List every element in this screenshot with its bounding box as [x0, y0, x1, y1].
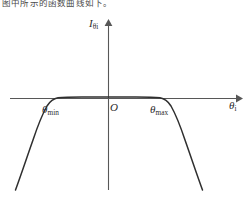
y-axis-subscript: θi — [93, 23, 99, 31]
x-axis-arrowhead — [236, 95, 243, 103]
y-axis-label: Iθi — [89, 17, 98, 31]
theta-min-subscript: min — [47, 109, 59, 117]
theta-max-subscript: max — [155, 109, 168, 117]
x-axis-subscript: i — [234, 105, 236, 113]
theta-max-label: θmax — [150, 103, 168, 117]
theta-min-label: θmin — [42, 103, 59, 117]
origin-label: O — [110, 101, 118, 113]
x-axis-label: θi — [229, 99, 237, 113]
plot-canvas — [0, 0, 244, 197]
saturation-curve-figure: 图中所示的函数曲线如下。 Iθi θi O θmin θmax — [0, 0, 244, 197]
y-axis-arrowhead — [105, 19, 113, 26]
